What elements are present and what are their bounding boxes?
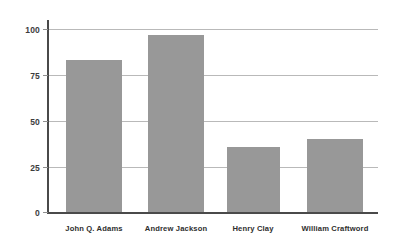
x-axis-label-john-q-adams: John Q. Adams (54, 224, 134, 233)
x-axis-label-william-craftword: William Craftword (295, 224, 375, 233)
y-axis-tick-label-75: 75 (10, 71, 40, 81)
x-axis-line (47, 212, 378, 214)
gridline-100 (49, 29, 378, 30)
tick-mark-75 (43, 75, 48, 76)
bar-henry-clay[interactable] (227, 147, 280, 213)
x-axis-label-henry-clay: Henry Clay (213, 224, 293, 233)
tick-mark-25 (43, 167, 48, 168)
y-axis-line (47, 20, 49, 214)
bar-andrew-jackson[interactable] (148, 35, 204, 213)
bar-john-q-adams[interactable] (66, 60, 122, 213)
tick-mark-50 (43, 121, 48, 122)
y-axis-tick-label-50: 50 (10, 117, 40, 127)
tick-mark-0 (43, 212, 48, 213)
x-axis-label-andrew-jackson: Andrew Jackson (136, 224, 216, 233)
y-axis-tick-label-0: 0 (10, 208, 40, 218)
tick-mark-100 (43, 29, 48, 30)
bar-william-craftword[interactable] (307, 139, 363, 213)
y-axis-tick-label-25: 25 (10, 163, 40, 173)
y-axis-tick-label-100: 100 (10, 25, 40, 35)
bar-chart: 100 75 50 25 0 John Q. Adams Andrew Jack… (0, 0, 398, 246)
